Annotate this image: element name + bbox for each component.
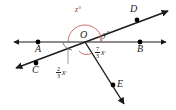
point-label-b: B <box>137 44 143 54</box>
degree-symbol: ° <box>65 70 67 75</box>
angle-label-two-thirds-x: 2 3 x ° <box>56 66 67 79</box>
point-label-a: A <box>35 44 41 54</box>
geometry-diagram: A B C D E O z° y° 2 3 x ° 7 3 x ° <box>0 0 176 110</box>
line-segment-cd <box>16 11 168 68</box>
fraction-seven-thirds: 7 3 <box>95 46 100 59</box>
point-dot-e <box>111 83 116 88</box>
point-dot-d <box>135 18 140 23</box>
fraction-denominator: 3 <box>56 73 61 79</box>
point-label-o: O <box>80 30 87 40</box>
angle-label-seven-thirds-x: 7 3 x ° <box>95 46 106 59</box>
angle-arc-two-thirds-x <box>63 43 72 50</box>
point-label-d: D <box>130 4 137 14</box>
point-label-c: C <box>32 65 39 75</box>
angle-label-z: z° <box>75 6 81 14</box>
diagram-canvas <box>0 0 176 110</box>
fraction-denominator: 3 <box>95 53 100 59</box>
angle-label-y: y° <box>103 31 110 39</box>
angle-arc-seven-thirds-x <box>79 51 92 55</box>
fraction-two-thirds: 2 3 <box>56 66 61 79</box>
point-label-e: E <box>117 79 123 89</box>
degree-symbol: ° <box>104 50 106 55</box>
